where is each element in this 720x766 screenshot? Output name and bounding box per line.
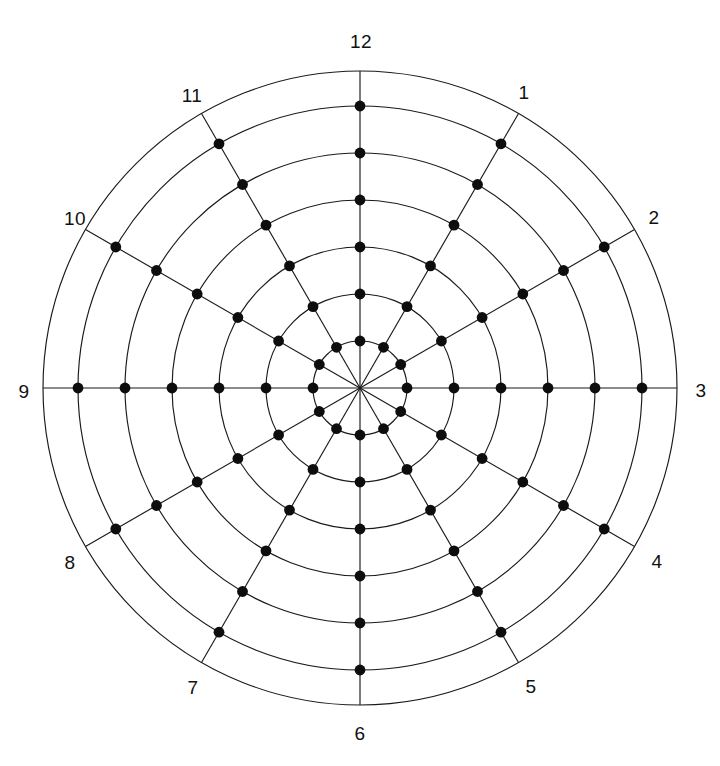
data-node-h11-r3 — [284, 260, 295, 271]
data-node-h2-r3 — [477, 312, 488, 323]
data-node-h9-r4 — [167, 383, 178, 394]
data-node-h1-r5 — [472, 179, 483, 190]
data-node-h11-r6 — [214, 138, 225, 149]
data-node-h8-r2 — [273, 430, 284, 441]
polar-clock-chart: 121234567891011 — [0, 0, 720, 766]
data-node-h2-r5 — [558, 265, 569, 276]
data-node-h5-r6 — [496, 627, 507, 638]
data-node-h9-r5 — [120, 383, 131, 394]
data-node-h9-r3 — [214, 383, 225, 394]
data-node-h8-r6 — [110, 524, 121, 535]
data-node-h5-r4 — [449, 545, 460, 556]
data-node-h2-r4 — [517, 289, 528, 300]
data-node-h1-r3 — [425, 260, 436, 271]
data-node-h6-r5 — [355, 618, 366, 629]
data-node-h10-r4 — [192, 289, 203, 300]
data-node-h4-r3 — [477, 453, 488, 464]
data-node-h7-r4 — [261, 545, 272, 556]
data-node-h1-r6 — [496, 138, 507, 149]
data-node-h6-r2 — [355, 477, 366, 488]
data-node-h8-r1 — [314, 406, 325, 417]
data-node-h10-r2 — [273, 336, 284, 347]
data-node-h1-r4 — [449, 220, 460, 231]
data-node-h12-r5 — [355, 148, 366, 159]
hour-label-7: 7 — [187, 678, 198, 697]
data-node-h10-r5 — [151, 265, 162, 276]
data-node-h10-r3 — [232, 312, 243, 323]
data-node-h10-r1 — [314, 359, 325, 370]
data-node-h9-r6 — [73, 383, 84, 394]
data-node-h5-r2 — [402, 464, 413, 475]
data-node-h12-r3 — [355, 242, 366, 253]
data-node-h8-r3 — [232, 453, 243, 464]
data-node-h3-r1 — [402, 383, 413, 394]
data-node-h2-r2 — [436, 336, 447, 347]
hour-label-3: 3 — [695, 381, 706, 400]
spoke-group — [43, 71, 677, 705]
data-node-h7-r6 — [214, 627, 225, 638]
hour-label-11: 11 — [182, 86, 203, 105]
data-node-h9-r1 — [308, 383, 319, 394]
hour-label-5: 5 — [525, 677, 536, 696]
data-node-h1-r1 — [378, 342, 389, 353]
data-node-h11-r5 — [237, 179, 248, 190]
data-node-h12-r4 — [355, 195, 366, 206]
polar-grid-svg — [0, 0, 720, 766]
data-node-h7-r5 — [237, 586, 248, 597]
hour-label-10: 10 — [64, 209, 86, 228]
hour-label-4: 4 — [651, 552, 662, 571]
data-node-h2-r6 — [599, 242, 610, 253]
data-node-h2-r1 — [395, 359, 406, 370]
data-node-h6-r6 — [355, 665, 366, 676]
data-node-h7-r2 — [308, 464, 319, 475]
data-node-h5-r3 — [425, 505, 436, 516]
data-node-h7-r3 — [284, 505, 295, 516]
data-node-h6-r1 — [355, 430, 366, 441]
data-node-h5-r1 — [378, 423, 389, 434]
hour-label-1: 1 — [518, 83, 529, 102]
data-node-h11-r2 — [308, 301, 319, 312]
data-node-h5-r5 — [472, 586, 483, 597]
data-node-h9-r2 — [261, 383, 272, 394]
data-node-h8-r4 — [192, 477, 203, 488]
data-node-h10-r6 — [110, 242, 121, 253]
data-node-h8-r5 — [151, 500, 162, 511]
data-node-h6-r4 — [355, 571, 366, 582]
data-node-h4-r4 — [517, 477, 528, 488]
data-node-h3-r2 — [449, 383, 460, 394]
data-node-h4-r2 — [436, 430, 447, 441]
data-node-h4-r1 — [395, 406, 406, 417]
hour-label-8: 8 — [64, 553, 75, 572]
hour-label-12: 12 — [350, 32, 372, 51]
data-node-h12-r2 — [355, 289, 366, 300]
data-node-h3-r3 — [496, 383, 507, 394]
data-node-h11-r4 — [261, 220, 272, 231]
hour-label-6: 6 — [354, 724, 365, 743]
data-node-h4-r6 — [599, 524, 610, 535]
data-node-h3-r4 — [543, 383, 554, 394]
data-node-h7-r1 — [331, 423, 342, 434]
data-node-h3-r5 — [590, 383, 601, 394]
data-node-h1-r2 — [402, 301, 413, 312]
hour-label-9: 9 — [18, 382, 29, 401]
data-node-h6-r3 — [355, 524, 366, 535]
data-node-h12-r1 — [355, 336, 366, 347]
data-node-h12-r6 — [355, 101, 366, 112]
data-node-h11-r1 — [331, 342, 342, 353]
hour-label-2: 2 — [648, 208, 659, 227]
data-node-h4-r5 — [558, 500, 569, 511]
data-node-h3-r6 — [637, 383, 648, 394]
